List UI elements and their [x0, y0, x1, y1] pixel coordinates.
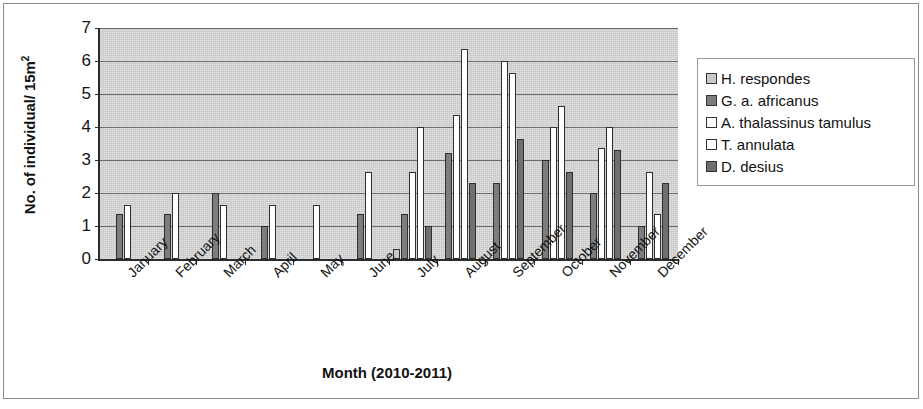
y-axis-title-text: No. of individual/ 15m	[21, 61, 38, 214]
bar	[469, 183, 476, 259]
bar-group	[485, 28, 533, 259]
bar	[409, 172, 416, 259]
y-tick-label: 6	[82, 51, 91, 71]
bar	[365, 172, 372, 259]
bar	[614, 150, 621, 259]
chart-figure: No. of individual/ 15m2 01234567 January…	[0, 0, 923, 409]
bar	[164, 214, 171, 259]
y-tick-label: 4	[82, 117, 91, 137]
y-tick-label: 3	[82, 150, 91, 170]
bar	[461, 49, 468, 259]
bar	[501, 61, 508, 259]
legend-swatch-icon	[706, 139, 717, 150]
bar-group	[100, 28, 148, 259]
plot-area: 01234567 JanuaryFebruaryMarchAprilMayJun…	[98, 28, 678, 261]
y-tick-label: 7	[82, 18, 91, 38]
legend-item: G. a. africanus	[706, 89, 908, 111]
bar-group	[341, 28, 389, 259]
bar	[509, 73, 516, 259]
y-tick-label: 1	[82, 216, 91, 236]
legend-item: H. respondes	[706, 67, 908, 89]
legend-swatch-icon	[706, 161, 717, 172]
legend-label: A. thalassinus tamulus	[721, 114, 871, 131]
bar	[116, 214, 123, 259]
legend-label: D. desius	[721, 158, 784, 175]
legend-item: A. thalassinus tamulus	[706, 111, 908, 133]
y-tick-label: 0	[82, 249, 91, 269]
legend-item: T. annulata	[706, 133, 908, 155]
legend-swatch-icon	[706, 73, 717, 84]
legend-item: D. desius	[706, 155, 908, 177]
bar	[261, 226, 268, 259]
bar	[269, 205, 276, 259]
bar-group	[148, 28, 196, 259]
bar	[313, 205, 320, 259]
x-axis-title: Month (2010-2011)	[98, 364, 676, 381]
legend-label: H. respondes	[721, 70, 810, 87]
bar	[357, 214, 364, 259]
bar	[662, 183, 669, 259]
bar	[606, 127, 613, 259]
legend-swatch-icon	[706, 95, 717, 106]
bar-group	[582, 28, 630, 259]
legend-swatch-icon	[706, 117, 717, 128]
bar-group	[196, 28, 244, 259]
chart-legend: H. respondesG. a. africanusA. thalassinu…	[697, 58, 915, 186]
bar	[220, 205, 227, 259]
bar-group	[293, 28, 341, 259]
bar	[401, 214, 408, 259]
bar-group	[245, 28, 293, 259]
bar	[445, 153, 452, 259]
y-tick-label: 2	[82, 183, 91, 203]
y-axis-title-superscript: 2	[20, 56, 31, 61]
legend-label: T. annulata	[721, 136, 794, 153]
y-tick-label: 5	[82, 84, 91, 104]
bar	[453, 115, 460, 259]
legend-label: G. a. africanus	[721, 92, 819, 109]
bar	[417, 127, 424, 259]
bar-group	[389, 28, 437, 259]
y-tick-mark	[95, 259, 100, 260]
bar	[566, 172, 573, 259]
bar-group	[437, 28, 485, 259]
bar	[172, 193, 179, 259]
y-axis-title: No. of individual/ 15m2	[20, 10, 38, 260]
bar	[124, 205, 131, 259]
bar	[517, 139, 524, 259]
